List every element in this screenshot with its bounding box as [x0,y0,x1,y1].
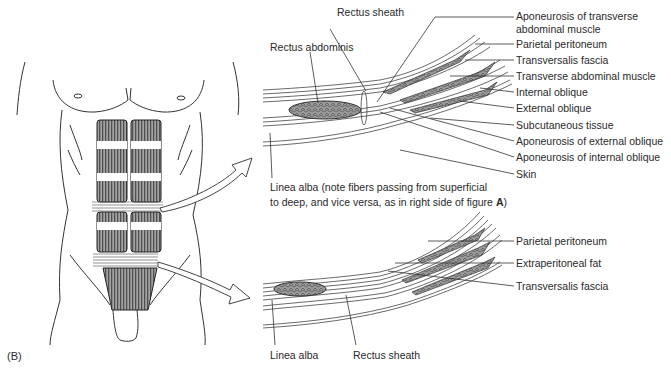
label-rectus-abdominis: Rectus abdominis [270,41,353,53]
arrow-to-lower-section [158,262,250,304]
label-external-oblique: External oblique [516,102,591,114]
label-extraperitoneal-fat: Extraperitoneal fat [516,257,601,269]
label-aponeurosis-transverse-2: abdominal muscle [516,23,601,35]
label-subcutaneous-tissue: Subcutaneous tissue [516,119,613,131]
caption-linea-alba-line1: Linea alba (note fibers passing from sup… [270,180,487,195]
label-parietal-peritoneum-upper: Parietal peritoneum [516,38,607,50]
rectus-abdominis-muscles [92,120,164,310]
label-parietal-peritoneum-lower: Parietal peritoneum [516,235,607,247]
label-transversalis-fascia-lower: Transversalis fascia [516,280,608,292]
arrow-to-upper-section [160,158,252,212]
rectus-abdominis-section [289,101,361,119]
figure-label: (B) [7,350,22,362]
label-transversalis-fascia-upper: Transversalis fascia [516,54,608,66]
label-skin: Skin [516,168,536,180]
label-rectus-sheath-upper: Rectus sheath [337,6,404,18]
label-transverse-abdominal-muscle: Transverse abdominal muscle [516,70,656,82]
caption-linea-alba-line2: to deep, and vice versa, as in right sid… [270,195,507,210]
label-aponeurosis-external-oblique: Aponeurosis of external oblique [516,135,663,147]
label-linea-alba-lower: Linea alba [270,349,318,361]
label-internal-oblique: Internal oblique [516,86,588,98]
label-rectus-sheath-lower: Rectus sheath [353,349,420,361]
label-aponeurosis-internal-oblique: Aponeurosis of internal oblique [516,151,660,163]
label-aponeurosis-transverse-1: Aponeurosis of transverse [516,10,638,22]
